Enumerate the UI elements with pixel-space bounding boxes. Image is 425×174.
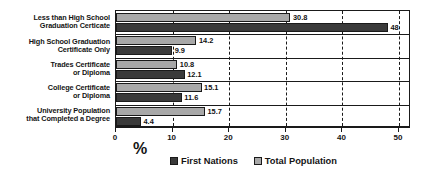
bar-total-population-2 (116, 36, 196, 45)
plot-area: 30.8 48 14.2 9.9 10.8 12.1 15.1 11.6 15.… (115, 10, 410, 127)
bar-value-total-1: 30.8 (293, 13, 307, 22)
legend-item-total-population[interactable]: Total Population (254, 156, 337, 166)
x-tick-label-30: 30 (280, 133, 289, 142)
category-label-trades-certificate: Trades Certificate or Diploma (51, 61, 110, 78)
bar-value-fn-2: 9.9 (175, 46, 185, 55)
bar-value-fn-1: 48 (390, 23, 398, 32)
bar-value-total-2: 14.2 (199, 36, 213, 45)
chart-legend: First Nations Total Population (170, 154, 337, 168)
category-label-line: Certificate Only (29, 46, 110, 54)
x-tick-label-10: 10 (167, 133, 176, 142)
category-label-less-than-high-school: Less than High School Graduation Certica… (33, 14, 110, 31)
category-label-line: or Diploma (48, 92, 110, 100)
gridline-50 (399, 11, 400, 126)
bar-first-nations-2 (116, 46, 172, 55)
category-label-line: or Diploma (51, 69, 110, 77)
bar-first-nations-5 (116, 117, 141, 126)
x-tick-10 (172, 127, 173, 132)
category-label-line: Graduation Certicate (33, 22, 110, 30)
education-attainment-bar-chart: Less than High School Graduation Certica… (0, 0, 425, 174)
bar-value-fn-3: 12.1 (187, 70, 201, 79)
x-tick-label-40: 40 (337, 133, 346, 142)
bar-first-nations-1 (116, 23, 388, 32)
legend-label-first-nations: First Nations (181, 156, 238, 166)
plot-inner: 30.8 48 14.2 9.9 10.8 12.1 15.1 11.6 15.… (116, 11, 409, 126)
bar-value-total-5: 15.7 (208, 107, 222, 116)
x-tick-50 (398, 127, 399, 132)
x-axis-line (115, 127, 410, 128)
category-label-line: that Completed a Degree (26, 115, 110, 123)
group-separator (116, 34, 409, 35)
x-tick-label-50: 50 (394, 133, 403, 142)
bar-value-total-4: 15.1 (204, 83, 218, 92)
bar-total-population-1 (116, 13, 290, 22)
group-separator (116, 58, 409, 59)
group-separator (116, 105, 409, 106)
legend-item-first-nations[interactable]: First Nations (170, 156, 238, 166)
bar-total-population-4 (116, 83, 202, 92)
category-label-university-degree: University Population that Completed a D… (26, 107, 110, 124)
bar-total-population-3 (116, 60, 177, 69)
bar-value-total-3: 10.8 (180, 60, 194, 69)
category-label-high-school-only: High School Graduation Certificate Only (29, 38, 110, 55)
bar-first-nations-3 (116, 70, 185, 79)
bar-first-nations-4 (116, 93, 182, 102)
bar-value-fn-4: 11.6 (184, 93, 198, 102)
x-axis-unit-label: % (133, 140, 147, 158)
bar-value-fn-5: 4.4 (144, 117, 154, 126)
x-tick-40 (341, 127, 342, 132)
category-label-college-certificate: College Certificate or Diploma (48, 84, 110, 101)
x-tick-label-20: 20 (224, 133, 233, 142)
category-axis-labels: Less than High School Graduation Certica… (0, 10, 113, 127)
legend-swatch-icon-first-nations (170, 157, 178, 165)
x-tick-label-0: 0 (113, 133, 117, 142)
legend-swatch-icon-total-population (254, 157, 262, 165)
x-tick-0 (115, 127, 116, 132)
x-tick-20 (228, 127, 229, 132)
group-separator (116, 81, 409, 82)
bar-total-population-5 (116, 107, 205, 116)
x-tick-30 (285, 127, 286, 132)
legend-label-total-population: Total Population (265, 156, 337, 166)
